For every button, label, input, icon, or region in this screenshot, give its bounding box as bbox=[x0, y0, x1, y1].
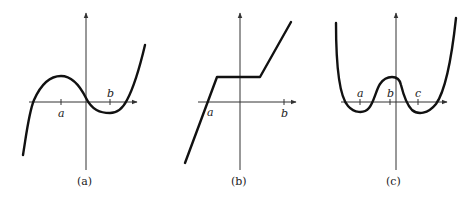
label-a: a bbox=[207, 106, 214, 119]
label-b: b bbox=[281, 107, 288, 120]
caption-b: (b) bbox=[231, 175, 247, 188]
label-a: a bbox=[357, 87, 364, 100]
label-a: a bbox=[58, 107, 65, 120]
graph-a: a b (a) bbox=[23, 13, 145, 188]
graph-c: a b c (c) bbox=[336, 13, 456, 188]
piecewise-linear-curve bbox=[185, 22, 291, 163]
label-b: b bbox=[387, 87, 394, 100]
figure-canvas: a b (a) a b (b) a b c (c) bbox=[0, 0, 474, 198]
caption-a: (a) bbox=[77, 175, 92, 188]
label-b: b bbox=[107, 87, 114, 100]
graph-b: a b (b) bbox=[185, 13, 296, 188]
caption-c: (c) bbox=[386, 175, 401, 188]
cubic-curve bbox=[23, 45, 145, 155]
label-c: c bbox=[415, 87, 421, 100]
